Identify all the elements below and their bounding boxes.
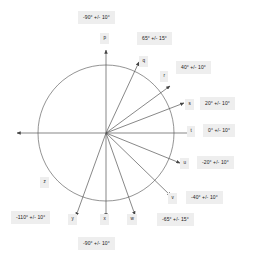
vector-arrow-r bbox=[106, 86, 170, 133]
vector-label-z: z bbox=[40, 177, 49, 188]
vector-label-x: x bbox=[100, 214, 109, 225]
vector-label-r: r bbox=[160, 71, 168, 82]
angle-annotation-u: -20° +/- 10° bbox=[197, 156, 234, 169]
vector-label-v: v bbox=[168, 193, 177, 204]
angle-annotation-w: -65° +/- 15° bbox=[157, 213, 194, 226]
angle-annotation-q: 65° +/- 15° bbox=[137, 32, 172, 45]
vector-label-w: w bbox=[127, 214, 137, 225]
angle-annotation-t: 0° +/- 10° bbox=[203, 124, 235, 137]
vector-label-s: s bbox=[185, 99, 194, 110]
angle-annotation-p: -90° +/- 10° bbox=[78, 11, 115, 24]
angle-annotation-x: -90° +/- 10° bbox=[78, 237, 115, 250]
vector-arrow-v bbox=[106, 133, 171, 196]
vector-label-q: q bbox=[139, 56, 148, 67]
vector-angle-diagram: p q r s t u v w x y z -90° +/- 10° 65° +… bbox=[0, 0, 267, 261]
vector-arrow-y bbox=[76, 133, 106, 216]
vector-arrow-u bbox=[106, 133, 180, 163]
vector-label-t: t bbox=[187, 126, 195, 137]
vector-label-u: u bbox=[180, 158, 189, 169]
vector-label-y: y bbox=[68, 214, 77, 225]
vector-arrow-w bbox=[106, 133, 135, 215]
vector-label-p: p bbox=[100, 33, 109, 44]
angle-annotation-v: -40° +/- 10° bbox=[186, 191, 223, 204]
angle-annotation-r: 40° +/- 10° bbox=[176, 61, 211, 74]
angle-annotation-s: 20° +/- 10° bbox=[200, 97, 235, 110]
angle-annotation-y: -110° +/- 10° bbox=[11, 211, 50, 224]
